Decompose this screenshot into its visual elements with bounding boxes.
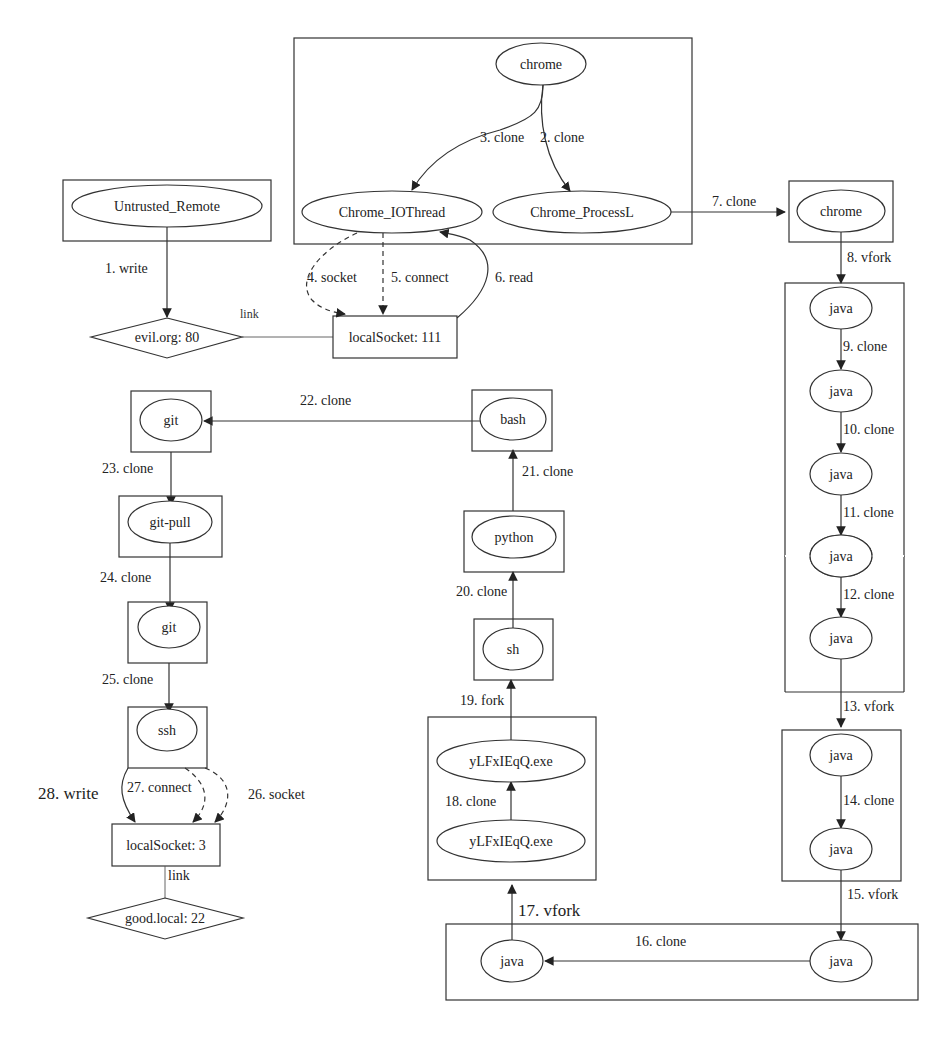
- edge-label-25: 25. clone: [102, 672, 153, 687]
- svg-text:java: java: [828, 384, 853, 399]
- svg-text:yLFxIEqQ.exe: yLFxIEqQ.exe: [469, 754, 553, 769]
- node-chrome-iothread[interactable]: Chrome_IOThread: [302, 191, 482, 233]
- node-chrome-top[interactable]: chrome: [496, 43, 586, 85]
- node-exe-bottom[interactable]: yLFxIEqQ.exe: [437, 820, 585, 862]
- svg-text:python: python: [495, 530, 534, 545]
- svg-text:java: java: [828, 954, 853, 969]
- edge-27-connect: [185, 768, 205, 822]
- svg-text:chrome: chrome: [820, 204, 862, 219]
- node-python[interactable]: python: [472, 516, 556, 558]
- node-exe-top[interactable]: yLFxIEqQ.exe: [437, 740, 585, 782]
- edge-label-22: 22. clone: [300, 393, 351, 408]
- edge-label-15: 15. vfork: [847, 887, 898, 902]
- edge-label-9: 9. clone: [843, 339, 887, 354]
- node-ssh[interactable]: ssh: [137, 709, 197, 751]
- node-java-6[interactable]: java: [810, 734, 872, 776]
- edge-label-13: 13. vfork: [843, 699, 894, 714]
- edge-label-23: 23. clone: [102, 461, 153, 476]
- svg-text:java: java: [828, 631, 853, 646]
- svg-text:localSocket: 3: localSocket: 3: [126, 838, 206, 853]
- node-untrusted-remote[interactable]: Untrusted_Remote: [72, 185, 262, 227]
- svg-text:java: java: [828, 748, 853, 763]
- svg-text:good.local: 22: good.local: 22: [125, 911, 205, 926]
- svg-text:Chrome_IOThread: Chrome_IOThread: [339, 205, 446, 220]
- node-java-3[interactable]: java: [810, 453, 872, 495]
- edge-label-28: 28. write: [38, 784, 98, 803]
- edge-label-7: 7. clone: [712, 194, 756, 209]
- edge-label-26: 26. socket: [248, 787, 305, 802]
- svg-text:java: java: [828, 301, 853, 316]
- svg-text:git: git: [162, 620, 177, 635]
- edge-label-12: 12. clone: [843, 587, 894, 602]
- edge-label-2: 2. clone: [540, 130, 584, 145]
- link-label-bottom: link: [168, 868, 190, 883]
- edge-label-4: 4. socket: [307, 270, 357, 285]
- edge-label-27: 27. connect: [127, 780, 192, 795]
- svg-text:git-pull: git-pull: [149, 515, 190, 530]
- node-localsocket-3[interactable]: localSocket: 3: [112, 824, 220, 866]
- node-git-mid[interactable]: git: [138, 606, 200, 648]
- edge-label-16: 16. clone: [635, 934, 686, 949]
- edge-label-1: 1. write: [105, 261, 148, 276]
- svg-text:ssh: ssh: [158, 723, 176, 738]
- svg-text:Untrusted_Remote: Untrusted_Remote: [114, 199, 220, 214]
- edge-label-11: 11. clone: [843, 505, 894, 520]
- node-java-bottom-left[interactable]: java: [481, 940, 543, 982]
- node-java-5[interactable]: java: [810, 617, 872, 659]
- edge-label-20: 20. clone: [456, 584, 507, 599]
- node-java-1[interactable]: java: [810, 287, 872, 329]
- svg-text:bash: bash: [500, 412, 526, 427]
- node-git-pull[interactable]: git-pull: [128, 501, 212, 543]
- node-sh[interactable]: sh: [483, 628, 543, 670]
- node-git-top[interactable]: git: [140, 399, 202, 441]
- provenance-graph: chrome Chrome_IOThread Chrome_ProcessL 3…: [0, 0, 950, 1039]
- edge-label-19: 19. fork: [460, 693, 504, 708]
- node-evil-org[interactable]: evil.org: 80: [91, 318, 242, 358]
- node-good-local[interactable]: good.local: 22: [88, 898, 243, 939]
- svg-text:sh: sh: [507, 642, 519, 657]
- svg-text:yLFxIEqQ.exe: yLFxIEqQ.exe: [469, 834, 553, 849]
- svg-text:java: java: [828, 842, 853, 857]
- edge-label-14: 14. clone: [843, 793, 894, 808]
- svg-text:git: git: [164, 413, 179, 428]
- node-bash[interactable]: bash: [480, 398, 546, 440]
- svg-text:chrome: chrome: [520, 57, 562, 72]
- node-java-2[interactable]: java: [810, 370, 872, 412]
- node-java-4-redraw: java: [810, 535, 872, 577]
- svg-text:localSocket: 111: localSocket: 111: [349, 330, 442, 345]
- node-localsocket-111[interactable]: localSocket: 111: [333, 316, 457, 358]
- svg-text:java: java: [828, 549, 853, 564]
- edge-label-21: 21. clone: [522, 464, 573, 479]
- node-chrome-processl[interactable]: Chrome_ProcessL: [493, 191, 671, 233]
- node-java-7[interactable]: java: [810, 828, 872, 870]
- edge-label-8: 8. vfork: [847, 250, 891, 265]
- node-chrome-right[interactable]: chrome: [797, 190, 885, 232]
- edge-label-17: 17. vfork: [518, 901, 581, 920]
- edge-26-socket: [205, 768, 228, 822]
- svg-text:java: java: [828, 467, 853, 482]
- svg-text:Chrome_ProcessL: Chrome_ProcessL: [530, 205, 633, 220]
- node-java-bottom-right[interactable]: java: [810, 940, 872, 982]
- svg-text:java: java: [499, 954, 524, 969]
- svg-text:evil.org: 80: evil.org: 80: [135, 330, 199, 345]
- edge-label-6: 6. read: [495, 270, 533, 285]
- edge-label-24: 24. clone: [100, 570, 151, 585]
- edge-label-10: 10. clone: [843, 422, 894, 437]
- edge-label-3: 3. clone: [480, 130, 524, 145]
- edge-label-5: 5. connect: [391, 270, 449, 285]
- edge-28-write: [122, 768, 135, 822]
- link-label-top: link: [240, 307, 259, 321]
- edge-label-18: 18. clone: [445, 794, 496, 809]
